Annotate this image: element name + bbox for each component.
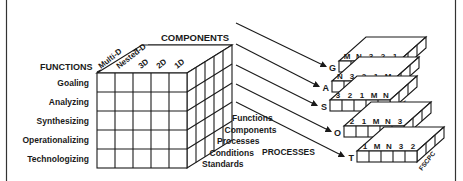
- slab-top-label: 3: [336, 91, 341, 100]
- slab-letter: A: [323, 83, 330, 93]
- slab-top-label: 1: [363, 142, 368, 151]
- function-labels: GoalingAnalyzingSynthesizingOperationali…: [22, 78, 89, 164]
- processes-heading: PROCESSES: [262, 147, 315, 157]
- slab-top-label: N: [383, 91, 389, 100]
- components-heading: COMPONENTS: [161, 32, 229, 43]
- slab-top-label: 2: [348, 91, 353, 100]
- cube-front-face: [97, 73, 187, 168]
- slab-top-label: M: [371, 91, 378, 100]
- arrow: [236, 44, 319, 87]
- process-label: Standards: [202, 159, 244, 169]
- slab-letter: G: [329, 63, 336, 73]
- process-label: Processes: [217, 136, 260, 146]
- slab-letter: T: [349, 153, 355, 163]
- components-functions-processes-diagram: COMPONENTS FUNCTIONS PROCESSES Multi-DNe…: [0, 0, 463, 181]
- slab-top-label: 2: [411, 142, 416, 151]
- function-label: Operationalizing: [22, 135, 89, 145]
- arrow: [236, 23, 326, 67]
- slab-top-label: N: [337, 72, 343, 81]
- slab-top-label: 1: [362, 117, 367, 126]
- function-label: Analyzing: [49, 97, 89, 107]
- function-label: Technologizing: [27, 154, 89, 164]
- slab-letter: O: [334, 128, 341, 138]
- slab-top-label: M: [374, 142, 381, 151]
- slab-top-label: N: [385, 117, 391, 126]
- slab-front-face: [357, 151, 417, 162]
- slab-top-label: 3: [399, 142, 404, 151]
- slab-top-label: 3: [398, 117, 403, 126]
- slab-letter: S: [321, 102, 327, 112]
- process-label: Conditions: [210, 148, 255, 158]
- process-label: Components: [225, 125, 277, 135]
- slabs: MN321SCPCFGN321MCPCFSA321MNPCFSCS21MN3CF…: [321, 37, 444, 172]
- arrow: [236, 65, 317, 106]
- function-label: Synthesizing: [37, 116, 89, 126]
- functions-heading: FUNCTIONS: [40, 62, 93, 72]
- slab-top-label: 2: [350, 117, 355, 126]
- slab-top-label: M: [344, 52, 351, 61]
- slab-top-label: 1: [360, 91, 365, 100]
- slab-top-label: N: [386, 142, 392, 151]
- slab-top-label: M: [373, 117, 380, 126]
- function-label: Goaling: [57, 78, 89, 88]
